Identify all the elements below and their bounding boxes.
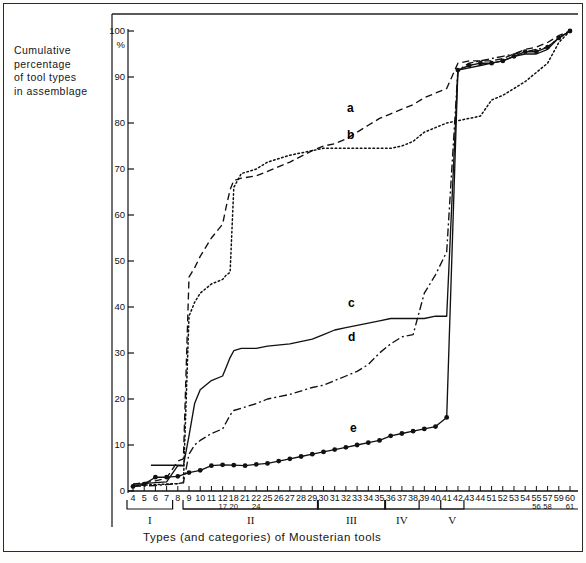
y-tick-label: 80 [114,117,125,128]
series-marker-e [523,49,528,54]
series-marker-e [198,468,203,473]
x-tick-label: 40 [431,493,441,503]
series-marker-e [411,429,416,434]
series-label-a: a [347,101,354,115]
series-marker-e [220,462,225,467]
x-tick-label: 37 [397,493,407,503]
figure-page: Cumulative percentage of tool types in a… [0,0,586,563]
x-tick-label: 52 [498,493,508,503]
series-marker-e [175,474,180,479]
series-marker-e [209,463,214,468]
y-tick-label: 0 [120,485,125,496]
x-tick-label: 25 [262,493,272,503]
series-line-e [133,31,570,486]
series-marker-e [512,54,517,59]
series-marker-e [456,68,461,73]
x-tick-label: 27 [285,493,295,503]
series-marker-e [568,29,573,34]
series-marker-e [366,440,371,445]
series-line-d [133,31,570,486]
series-marker-e [500,59,505,64]
series-marker-e [478,61,483,66]
series-marker-e [355,443,360,448]
y-tick-label: 50 [114,255,125,266]
x-tick-label: 28 [296,493,306,503]
x-tick-label: 11 [207,493,216,503]
x-tick-label: 34 [363,493,373,503]
x-tick-label: 31 [330,493,340,503]
series-labels: abcde [347,101,357,435]
category-label-IV: IV [396,514,408,526]
cumulative-percentage-chart: 0102030405060708090100% abcde 4567891011… [0,0,586,563]
x-tick-label: 35 [375,493,385,503]
series-marker-e [254,462,259,467]
series-marker-e [377,438,382,443]
series-marker-e [400,431,405,436]
series-curves [131,29,573,489]
series-label-b: b [347,128,354,142]
series-marker-e [187,470,192,475]
series-marker-e [433,424,438,429]
x-tick-label: 5 [142,493,147,503]
y-tick-label: 40 [114,301,125,312]
series-marker-e [467,63,472,68]
y-tick-label: 10 [114,439,125,450]
series-line-a [133,31,570,484]
category-label-III: III [346,514,357,526]
percent-symbol: % [117,39,126,50]
x-tick-label: 33 [352,493,362,503]
series-marker-e [276,459,281,464]
series-line-b [133,31,570,486]
series-marker-e [332,447,337,452]
y-tick-label: 30 [114,347,125,358]
x-tick-label: 6 [153,493,158,503]
y-axis: 0102030405060708090100% [109,25,134,496]
series-marker-e [444,415,449,420]
series-marker-e [344,445,349,450]
x-tick-label: 26 [274,493,284,503]
series-marker-e [556,36,561,41]
series-marker-e [153,475,158,480]
y-tick-label: 90 [114,71,125,82]
x-tick-label: 54 [520,493,530,503]
series-marker-e [388,433,393,438]
x-tick-label: 29 [307,493,317,503]
series-marker-e [534,49,539,54]
series-marker-e [310,452,315,457]
series-label-d: d [348,330,355,344]
x-tick-label: 43 [464,493,474,503]
series-label-e: e [350,421,357,435]
series-marker-e [489,61,494,66]
series-marker-e [288,456,293,461]
x-tick-label: 4 [130,493,135,503]
series-line-c [133,31,570,484]
category-brackets: IIIIIIIVV [127,500,578,526]
x-tick-label: 21 [240,493,250,503]
x-tick-label: 32 [341,493,351,503]
series-label-c: c [348,296,355,310]
series-marker-e [299,454,304,459]
x-tick-label: 36 [386,493,396,503]
x-axis: 4567891011121718202122242526272829303132… [128,486,578,511]
y-tick-label: 20 [114,393,125,404]
x-tick-label: 53 [509,493,519,503]
category-label-I: I [148,514,152,526]
plot-frame [112,14,578,527]
x-tick-label: 9 [187,493,192,503]
category-label-V: V [448,514,456,526]
x-tick-label: 10 [195,493,205,503]
x-tick-label: 39 [419,493,429,503]
category-label-II: II [247,514,255,526]
series-marker-e [422,427,427,432]
x-tick-label: 51 [487,493,497,503]
series-marker-e [321,450,326,455]
x-tick-label: 38 [408,493,418,503]
x-tick-label: 42 [453,493,463,503]
x-axis-caption: Types (and categories) of Mousterian too… [143,531,381,543]
series-marker-e [243,463,248,468]
series-marker-e [265,461,270,466]
x-tick-label: 8 [175,493,180,503]
x-tick-label: 30 [318,493,328,503]
y-tick-label: 60 [114,209,125,220]
x-tick-label: 7 [164,493,169,503]
